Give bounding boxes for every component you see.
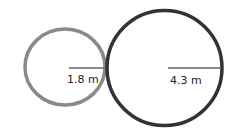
- circles-diagram: 1.8 m 4.3 m: [0, 0, 235, 129]
- small-radius-label: 1.8 m: [67, 73, 99, 86]
- large-radius-label: 4.3 m: [170, 74, 202, 87]
- small-circle: [25, 29, 105, 105]
